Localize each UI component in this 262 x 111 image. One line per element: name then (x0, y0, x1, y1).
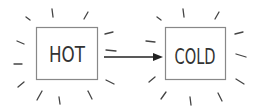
arrowhead-icon (153, 53, 163, 61)
cold-label: COLD (175, 45, 216, 69)
diagram-canvas: HOT COLD (0, 0, 262, 111)
arrow-edge (104, 53, 163, 61)
hot-node: HOT (14, 9, 116, 104)
hot-label: HOT (49, 43, 85, 67)
